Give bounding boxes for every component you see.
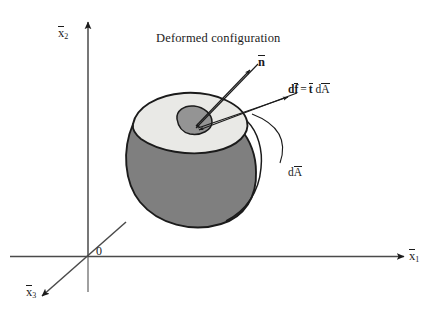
force-relation-a: A [321,83,329,96]
origin-label: 0 [96,245,102,257]
force-relation-label: df=tdA [288,83,330,96]
x3-axis-symbol: x [26,285,32,299]
area-element-label: dA [288,166,302,179]
area-label-leader-line [252,114,283,163]
figure-canvas [0,0,433,311]
normal-vector-label: n [258,55,265,69]
deformed-configuration-caption: Deformed configuration [156,32,280,45]
force-relation-d2: d [313,83,322,95]
x2-axis-label: x2 [58,26,68,41]
x1-axis-symbol: x [409,249,415,263]
x3-axis-line [42,222,126,296]
force-relation-equals: = [298,83,309,95]
deformed-configuration-figure: x2 x1 x3 0 Deformed configuration n df=t… [0,0,433,311]
area-element-a: A [294,166,302,179]
x3-axis-label: x3 [26,285,36,300]
x2-axis-symbol: x [58,26,64,40]
normal-vector-symbol: n [258,55,265,69]
force-relation-t: t [309,83,313,96]
x1-axis-label: x1 [409,249,419,264]
force-relation-f: f [294,83,298,96]
